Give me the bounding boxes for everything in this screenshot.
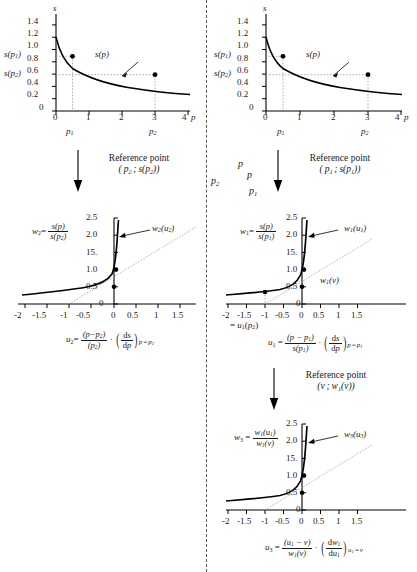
tr-ytick-6: 0.4 — [237, 78, 248, 87]
ml-xtick-6: 1 — [154, 311, 159, 320]
mr-axis-note: = u1(p2) — [230, 321, 258, 331]
tr-ylabel-sp2: s(p2) — [214, 69, 231, 79]
ml-ytick-5: 0.5 — [86, 282, 97, 291]
br-xtick-5: 0.5 — [313, 517, 324, 526]
tl-ytick-5: 0.6 — [27, 66, 38, 75]
panel-divider-dashdot — [206, 0, 207, 572]
br-xtick-4: 0 — [299, 517, 304, 526]
tr-xtick-0: 0 — [263, 113, 268, 122]
tl-x-axis-label: p — [191, 113, 196, 122]
ref-left-line1: Reference point — [84, 153, 194, 164]
mr-ytick-2: 2.0 — [286, 230, 297, 239]
tr-ytick-2: 1.2 — [237, 29, 248, 38]
br-xtick-2: -1 — [261, 517, 269, 526]
tl-ytick-7: 0.2 — [27, 90, 38, 99]
tl-ytick-1: 1.4 — [27, 17, 38, 26]
ml-xtick-1: -1.5 — [32, 311, 46, 320]
mr-curve-label: w1(u1) — [344, 224, 366, 234]
tr-ytick-8: 0 — [249, 103, 254, 112]
tl-ytick-2: 1.2 — [27, 29, 38, 38]
formula-u1: u1 = (p − p1) s(p1) · (dsdp)p = p1 — [268, 333, 363, 354]
mr-y-axis-expression: w1= s(p) s(p1) — [240, 222, 276, 241]
stray-label-p-a: p — [238, 159, 243, 170]
tl-xtick-3: 3 — [152, 113, 157, 122]
reference-point-left: Reference point ( p2 ; s(p2)) — [84, 153, 194, 176]
ml-ytick-2: 2.0 — [86, 230, 97, 239]
br-xtick-1: -1.5 — [237, 517, 251, 526]
stray-label-p1: p1 — [249, 186, 257, 197]
br-xtick-7: 1.5 — [351, 517, 362, 526]
mr-ytick-4: 1.0 — [286, 265, 297, 274]
tr-ytick-4: 0.8 — [237, 54, 248, 63]
tr-x-axis-label: p — [404, 113, 409, 122]
ml-xtick-5: 0.5 — [127, 311, 138, 320]
tr-xtick-1: 1 — [297, 113, 302, 122]
br-ytick-2: 2.0 — [286, 436, 297, 445]
mr-ytick-3: 15. — [286, 248, 297, 257]
ml-ytick-3: 15. — [86, 248, 97, 257]
mr-xtick-2: -1 — [261, 311, 269, 320]
tl-y-axis-label: s — [53, 4, 57, 13]
tl-xlabel-p1: p1 — [66, 127, 73, 137]
tr-xtick-2: 2 — [331, 113, 336, 122]
br-ytick-5: 0.5 — [286, 488, 297, 497]
ml-curve-label: w2(u2) — [152, 224, 174, 234]
tl-curve-label: s(p) — [95, 50, 109, 59]
br-ytick-6: 0 — [296, 505, 301, 514]
ref-left-line2: ( p2 ; s(p2)) — [84, 164, 194, 176]
stray-label-p2: p2 — [211, 176, 219, 187]
ml-ytick-1: 2.5 — [86, 213, 97, 222]
mr-xtick-7: 1.5 — [351, 311, 362, 320]
mr-xtick-5: 0.5 — [313, 311, 324, 320]
formula-u3: u3 = (u1 − v) w1(v) · (dw1du1)u1 = v — [265, 538, 363, 559]
ml-xtick-7: 1.5 — [172, 311, 183, 320]
ml-xtick-4: 0 — [111, 311, 116, 320]
tl-xtick-2: 2 — [119, 113, 124, 122]
tl-ytick-4: 0.8 — [27, 54, 38, 63]
tl-ylabel-sp1: s(p1) — [4, 50, 21, 60]
tl-ytick-8: 0 — [39, 103, 44, 112]
mr-xtick-6: 1 — [336, 311, 341, 320]
mr-xtick-0: -2 — [222, 311, 230, 320]
tr-ytick-5: 0.6 — [237, 66, 248, 75]
br-curve-label: w3(u3) — [344, 430, 366, 440]
br-y-axis-expression: w3 = w1(u1) w1(v) — [234, 428, 278, 449]
tr-xtick-3: 3 — [365, 113, 370, 122]
tl-xtick-1: 1 — [86, 113, 91, 122]
ref-bottom-line2: (v ; w1(v)) — [280, 381, 392, 393]
tr-y-axis-label: s — [263, 4, 267, 13]
ml-ytick-6: 0 — [99, 299, 104, 308]
ref-right-line2: ( p1 ; s(p1)) — [284, 164, 396, 176]
reference-point-bottom: Reference point (v ; w1(v)) — [280, 370, 392, 393]
tl-xlabel-p2: p2 — [149, 127, 156, 137]
ml-xtick-2: -1 — [60, 311, 68, 320]
mr-xtick-3: -0.5 — [275, 311, 289, 320]
ml-y-axis-expression: w2= s(p) s(p2) — [32, 222, 68, 241]
tl-ylabel-sp2: s(p2) — [4, 69, 21, 79]
mr-xtick-4: 0 — [299, 311, 304, 320]
tl-ytick-6: 0.4 — [27, 78, 38, 87]
tr-ytick-7: 0.2 — [237, 90, 248, 99]
tl-xtick-0: 0 — [53, 113, 58, 122]
br-ytick-4: 1.0 — [286, 471, 297, 480]
mr-ytick-5: 0.5 — [286, 282, 297, 291]
tr-xlabel-p2: p2 — [361, 127, 368, 137]
tr-curve-label: s(p) — [306, 50, 320, 59]
br-xtick-6: 1 — [336, 517, 341, 526]
br-ytick-3: 15. — [286, 454, 297, 463]
br-xtick-0: -2 — [222, 517, 230, 526]
tr-ytick-1: 1.4 — [237, 17, 248, 26]
mr-secondary-label: w1(v) — [320, 276, 339, 286]
tl-xtick-4: 4 — [182, 113, 187, 122]
tr-ytick-3: 1.0 — [237, 41, 248, 50]
br-xtick-3: -0.5 — [275, 517, 289, 526]
ref-bottom-line1: Reference point — [280, 370, 392, 381]
tl-ytick-3: 1.0 — [27, 41, 38, 50]
ml-ytick-4: 1.0 — [86, 265, 97, 274]
formula-u2: u2= (p−p2) (p2) · (dsdp)p = p2 — [66, 330, 154, 351]
ref-right-line1: Reference point — [284, 153, 396, 164]
ml-xtick-3: -0.5 — [76, 311, 90, 320]
tr-xlabel-p1: p1 — [277, 127, 284, 137]
tr-xtick-4: 4 — [395, 113, 400, 122]
tr-ylabel-sp1: s(p1) — [214, 50, 231, 60]
